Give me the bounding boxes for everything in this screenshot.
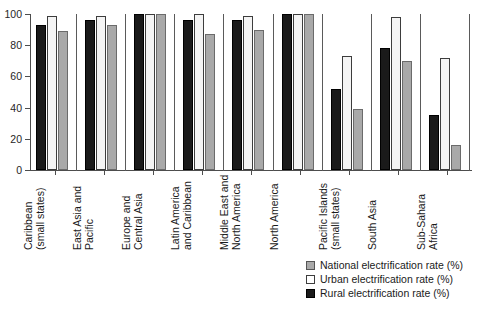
y-axis-tick-label: 20	[10, 134, 22, 144]
bar	[342, 56, 352, 170]
bar	[254, 30, 264, 170]
legend-item: Urban electrification rate (%)	[306, 272, 463, 286]
category-label-line: Middle East and	[219, 175, 230, 250]
legend-swatch-urban	[306, 275, 315, 284]
bar	[107, 25, 117, 170]
bar	[194, 14, 204, 170]
x-axis-tick	[251, 171, 252, 175]
legend-label: National electrification rate (%)	[320, 260, 463, 271]
legend-label: Urban electrification rate (%)	[320, 274, 453, 285]
category-label-line: North America	[231, 183, 242, 250]
category-label-line: (small states)	[330, 188, 341, 250]
category-label-line: Sub-Sahara	[416, 194, 427, 250]
y-axis-tick-label: 60	[10, 71, 22, 81]
x-axis-tick	[104, 171, 105, 175]
bar	[282, 14, 292, 170]
bar	[440, 58, 450, 170]
bar	[85, 20, 95, 170]
x-axis-tick	[55, 171, 56, 175]
legend-swatch-rural	[306, 289, 315, 298]
category-label-line: Pacific	[84, 219, 95, 250]
category-label-line: South Asia	[367, 200, 378, 250]
bar	[353, 109, 363, 170]
bar	[36, 25, 46, 170]
bar	[232, 20, 242, 170]
category-label-line: (small states)	[35, 188, 46, 250]
bar	[293, 14, 303, 170]
category-label-line: Central Asia	[133, 193, 144, 250]
x-axis-tick	[349, 171, 350, 175]
category-label-line: Caribbean	[23, 202, 34, 250]
category-label-line: East Asia and	[72, 186, 83, 250]
bar	[183, 20, 193, 170]
category-label-line: North America	[269, 183, 280, 250]
bar	[391, 17, 401, 170]
category-label-line: Europe and	[121, 196, 132, 250]
y-axis-tick-label: 0	[16, 165, 22, 175]
bar-chart: 020406080100 Caribbean(small states)East…	[0, 0, 490, 317]
bar	[156, 14, 166, 170]
x-axis-tick	[398, 171, 399, 175]
category-label-line: Pacific Islands	[318, 183, 329, 250]
bar	[304, 14, 314, 170]
category-label-line: Latin America	[170, 186, 181, 250]
bar	[380, 48, 390, 170]
bar	[96, 16, 106, 170]
legend-label: Rural electrification rate (%)	[320, 288, 450, 299]
x-axis-tick	[153, 171, 154, 175]
bar	[47, 16, 57, 170]
bar	[134, 14, 144, 170]
y-axis-tick-label: 40	[10, 103, 22, 113]
bar	[58, 31, 68, 170]
legend-item: National electrification rate (%)	[306, 258, 463, 272]
x-axis-tick	[300, 171, 301, 175]
bar	[451, 145, 461, 170]
plot-area	[30, 14, 472, 170]
x-axis-tick	[202, 171, 203, 175]
chart-legend: National electrification rate (%)Urban e…	[306, 258, 463, 300]
bar	[331, 89, 341, 170]
x-axis-tick	[447, 171, 448, 175]
legend-swatch-national	[306, 261, 315, 270]
category-label-line: Africa	[428, 223, 439, 250]
y-axis-tick-label: 100	[4, 9, 22, 19]
legend-item: Rural electrification rate (%)	[306, 286, 463, 300]
bar	[205, 34, 215, 170]
category-label-line: and Caribbean	[182, 181, 193, 250]
bar	[145, 14, 155, 170]
bar	[402, 61, 412, 170]
bar	[429, 115, 439, 170]
y-axis-tick-label: 80	[10, 40, 22, 50]
bar	[243, 16, 253, 170]
